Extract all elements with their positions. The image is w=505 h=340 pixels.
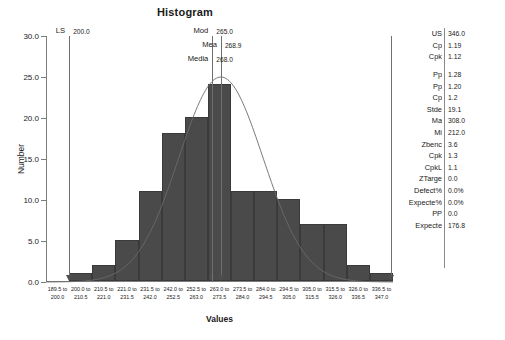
stats-row: Mi212.0 xyxy=(398,127,498,139)
reference-line-arrow xyxy=(66,275,72,281)
x-tick-line-2: 210.5 xyxy=(71,294,90,302)
y-tick-label: 15.0 xyxy=(23,155,39,164)
histogram-screenshot: Histogram Number 0.05.010.015.020.025.03… xyxy=(0,0,505,340)
stats-row-label: Cp xyxy=(398,93,442,102)
y-tick-label: 20.0 xyxy=(23,114,39,123)
x-tick-label: 242.0 to252.5 xyxy=(163,286,182,301)
x-tick-line-1: 200.0 to xyxy=(71,286,90,294)
stats-row-value: 1.1 xyxy=(442,164,457,171)
x-tick-line-2: 336.5 xyxy=(349,294,368,302)
reference-value: 268.9 xyxy=(225,42,242,49)
stats-row-label: %Expecte xyxy=(398,198,442,207)
x-tick-label: 263.0 to273.5 xyxy=(210,286,229,301)
stats-row-value: 1.3 xyxy=(442,152,457,159)
x-tick-line-1: 273.5 to xyxy=(233,286,252,294)
x-tick-line-2: 273.5 xyxy=(210,294,229,302)
stats-row-value: 1.28 xyxy=(442,71,461,78)
stats-row-value: 1.12 xyxy=(442,53,461,60)
x-tick-line-1: 326.0 to xyxy=(349,286,368,294)
y-tick-label: 5.0 xyxy=(28,237,39,246)
stats-row-value: 346.0 xyxy=(442,30,465,37)
y-tick-label: 30.0 xyxy=(23,32,39,41)
x-tick-line-2: 242.0 xyxy=(140,294,159,302)
x-tick-line-2: 284.0 xyxy=(233,294,252,302)
x-tick-label: 189.5 to200.0 xyxy=(48,286,67,301)
stats-row-value: 0.0 xyxy=(442,210,457,217)
stats-row-value: 212.0 xyxy=(442,129,465,136)
y-tick-label: 10.0 xyxy=(23,196,39,205)
stats-row-label: PP xyxy=(398,209,442,218)
x-tick-line-1: 263.0 to xyxy=(210,286,229,294)
x-tick-label: 200.0 to210.5 xyxy=(71,286,90,301)
stats-row: Pp1.20 xyxy=(398,80,498,92)
x-tick-line-2: 315.5 xyxy=(302,294,321,302)
stats-row: Cpk1.3 xyxy=(398,150,498,162)
x-tick-line-2: 326.0 xyxy=(325,294,344,302)
stats-row-value: 1.20 xyxy=(442,83,461,90)
reference-label: Mod xyxy=(194,26,209,35)
stats-row-value: 3.6 xyxy=(442,141,457,148)
stats-row: ZTarge0.0 xyxy=(398,173,498,185)
x-tick-line-2: 252.5 xyxy=(163,294,182,302)
stats-row: US346.0 xyxy=(398,28,498,40)
x-tick-label: 221.0 to231.5 xyxy=(117,286,136,301)
reference-value: 200.0 xyxy=(73,28,90,35)
stats-row-value: 176.8 xyxy=(442,222,465,229)
x-tick-label: 336.5 to347.0 xyxy=(372,286,391,301)
stats-row-value: 0.0% xyxy=(442,187,464,194)
x-axis-tick-labels: 189.5 to200.0200.0 to210.5210.5 to221.02… xyxy=(46,286,393,310)
x-tick-line-1: 189.5 to xyxy=(48,286,67,294)
x-tick-line-1: 210.5 to xyxy=(94,286,113,294)
x-tick-line-2: 294.5 xyxy=(256,294,275,302)
x-tick-line-2: 305.0 xyxy=(279,294,298,302)
reference-line xyxy=(212,36,213,282)
stats-row: Expecte176.8 xyxy=(398,220,498,232)
x-tick-line-1: 242.0 to xyxy=(163,286,182,294)
stats-row-label: ZTarge xyxy=(398,174,442,183)
stats-row-label: Cpk xyxy=(398,52,442,61)
reference-value: 265.0 xyxy=(216,28,233,35)
reference-line xyxy=(391,36,392,275)
stats-row: PP0.0 xyxy=(398,208,498,220)
stats-row: Cpk1.12 xyxy=(398,51,498,63)
x-tick-line-1: 315.5 to xyxy=(325,286,344,294)
x-tick-line-1: 284.0 to xyxy=(256,286,275,294)
x-tick-label: 315.5 to326.0 xyxy=(325,286,344,301)
stats-row-label: Ma xyxy=(398,116,442,125)
reference-line-arrow xyxy=(388,275,394,281)
stats-row-value: 19.1 xyxy=(442,106,461,113)
x-tick-line-1: 221.0 to xyxy=(117,286,136,294)
reference-label: LS xyxy=(56,26,65,35)
stats-row: Zbenc3.6 xyxy=(398,138,498,150)
x-tick-label: 273.5 to284.0 xyxy=(233,286,252,301)
y-tick-label: 0.0 xyxy=(28,278,39,287)
x-tick-label: 305.0 to315.5 xyxy=(302,286,321,301)
x-tick-line-2: 200.0 xyxy=(48,294,67,302)
stats-row-value: 0.0 xyxy=(442,175,457,182)
stats-row-label: %Defect xyxy=(398,186,442,195)
x-tick-line-2: 347.0 xyxy=(372,294,391,302)
x-tick-line-1: 231.5 to xyxy=(140,286,159,294)
reference-label: Mea xyxy=(202,40,217,49)
normal-distribution-curve xyxy=(46,36,393,282)
stats-row-label: US xyxy=(398,29,442,38)
stats-row: Cp1.19 xyxy=(398,40,498,52)
stats-row: CpkL1.1 xyxy=(398,162,498,174)
reference-value: 268.0 xyxy=(216,56,233,63)
stats-row: %Defect0.0% xyxy=(398,185,498,197)
stats-row-value: 0.0% xyxy=(442,199,464,206)
stats-row: Ma308.0 xyxy=(398,115,498,127)
x-tick-line-1: 305.0 to xyxy=(302,286,321,294)
stats-row-label: Stde xyxy=(398,105,442,114)
x-tick-line-1: 252.5 to xyxy=(187,286,206,294)
reference-line xyxy=(69,36,70,275)
x-tick-label: 231.5 to242.0 xyxy=(140,286,159,301)
stats-row-label: Pp xyxy=(398,70,442,79)
stats-row-label: Mi xyxy=(398,128,442,137)
reference-line xyxy=(221,36,222,275)
stats-row-label: CpkL xyxy=(398,163,442,172)
stats-row-label: Pp xyxy=(398,82,442,91)
x-tick-line-2: 231.5 xyxy=(117,294,136,302)
stats-row: Stde19.1 xyxy=(398,104,498,116)
y-tick-mark xyxy=(41,282,46,283)
